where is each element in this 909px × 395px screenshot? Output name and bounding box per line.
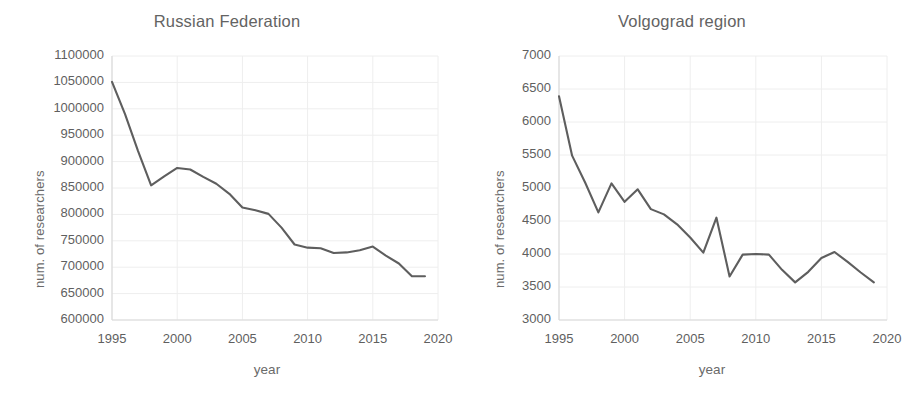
y-tick-label: 6500	[461, 80, 551, 95]
x-tick-label: 2020	[857, 331, 909, 346]
chart-panel-russian-federation: Russian Federation num. of researchers y…	[0, 0, 454, 395]
data-series-line-left	[112, 82, 425, 276]
x-tick-label: 2010	[278, 331, 338, 346]
x-tick-label: 2005	[212, 331, 272, 346]
y-tick-label: 950000	[14, 126, 104, 141]
y-tick-label: 5000	[461, 179, 551, 194]
y-tick-label: 1100000	[14, 47, 104, 62]
y-tick-label: 3000	[461, 311, 551, 326]
y-tick-label: 7000	[461, 47, 551, 62]
y-tick-label: 1000000	[14, 100, 104, 115]
gridlines-right	[559, 56, 887, 320]
x-tick-label: 1995	[529, 331, 589, 346]
y-tick-label: 1050000	[14, 73, 104, 88]
x-tick-label: 2000	[595, 331, 655, 346]
y-tick-label: 600000	[14, 311, 104, 326]
x-tick-label: 2000	[147, 331, 207, 346]
y-tick-label: 6000	[461, 113, 551, 128]
x-tick-label: 1995	[82, 331, 142, 346]
gridlines-left	[112, 56, 438, 320]
y-tick-label: 650000	[14, 285, 104, 300]
y-tick-label: 850000	[14, 179, 104, 194]
x-tick-label: 2015	[791, 331, 851, 346]
y-tick-label: 4500	[461, 212, 551, 227]
y-tick-label: 800000	[14, 205, 104, 220]
figure-root: Russian Federation num. of researchers y…	[0, 0, 909, 395]
y-tick-label: 4000	[461, 245, 551, 260]
x-tick-label: 2010	[726, 331, 786, 346]
x-tick-label: 2015	[343, 331, 403, 346]
y-tick-label: 750000	[14, 232, 104, 247]
x-tick-label: 2005	[660, 331, 720, 346]
y-tick-label: 700000	[14, 258, 104, 273]
y-tick-label: 3500	[461, 278, 551, 293]
chart-panel-volgograd-region: Volgograd region num. of researchers yea…	[455, 0, 909, 395]
y-tick-label: 5500	[461, 146, 551, 161]
y-tick-label: 900000	[14, 153, 104, 168]
